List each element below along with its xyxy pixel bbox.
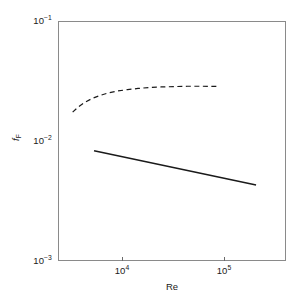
x-axis-tick-mark-1e5 <box>224 257 225 261</box>
chart-figure: 10−1 10−2 10−3 fF 104 105 Re <box>0 0 306 304</box>
y-axis-tick-label-1e-1: 10−1 <box>14 16 52 26</box>
plot-canvas <box>58 21 286 261</box>
y-axis-tick-label-1e-3: 10−3 <box>14 256 52 266</box>
y-tick-exponent: −2 <box>44 134 52 141</box>
y-axis-title-subscript: F <box>15 134 22 138</box>
x-tick-exponent: 4 <box>125 264 129 271</box>
series-dashed-curve <box>73 86 220 112</box>
x-axis-tick-label-1e5: 105 <box>204 266 244 276</box>
y-tick-exponent: −3 <box>44 254 52 261</box>
x-tick-mantissa: 10 <box>115 265 126 276</box>
y-axis-title-base: f <box>10 138 21 141</box>
y-tick-mantissa: 10 <box>33 15 44 26</box>
series-solid-line <box>94 151 256 185</box>
y-axis-title: fF <box>10 118 21 158</box>
x-axis-tick-mark-1e4 <box>122 257 123 261</box>
x-tick-mantissa: 10 <box>217 265 228 276</box>
y-tick-mantissa: 10 <box>33 255 44 266</box>
x-axis-tick-label-1e4: 104 <box>102 266 142 276</box>
y-tick-exponent: −1 <box>44 14 52 21</box>
x-tick-exponent: 5 <box>227 264 231 271</box>
y-tick-mantissa: 10 <box>33 135 44 146</box>
x-axis-title: Re <box>58 281 286 292</box>
